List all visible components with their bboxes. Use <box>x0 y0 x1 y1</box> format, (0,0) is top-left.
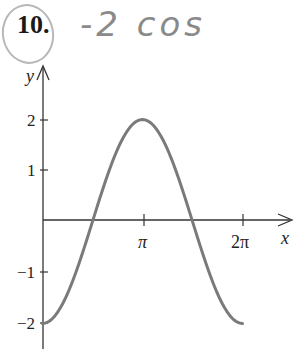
x-tick-label-pi: π <box>138 232 148 252</box>
y-tick-label-2: 2 <box>27 111 36 130</box>
y-tick-label-1: 1 <box>27 161 36 180</box>
x-axis-label: x <box>280 228 289 248</box>
x-tick-label-2pi: 2π <box>231 232 249 252</box>
y-tick-label-neg1: −1 <box>17 263 35 282</box>
y-tick-label-neg2: −2 <box>17 314 35 333</box>
graph: 2 1 −1 −2 π 2π y x <box>0 0 302 349</box>
cosine-curve <box>43 120 243 324</box>
y-ticks <box>40 120 48 323</box>
y-axis-label: y <box>24 66 34 86</box>
